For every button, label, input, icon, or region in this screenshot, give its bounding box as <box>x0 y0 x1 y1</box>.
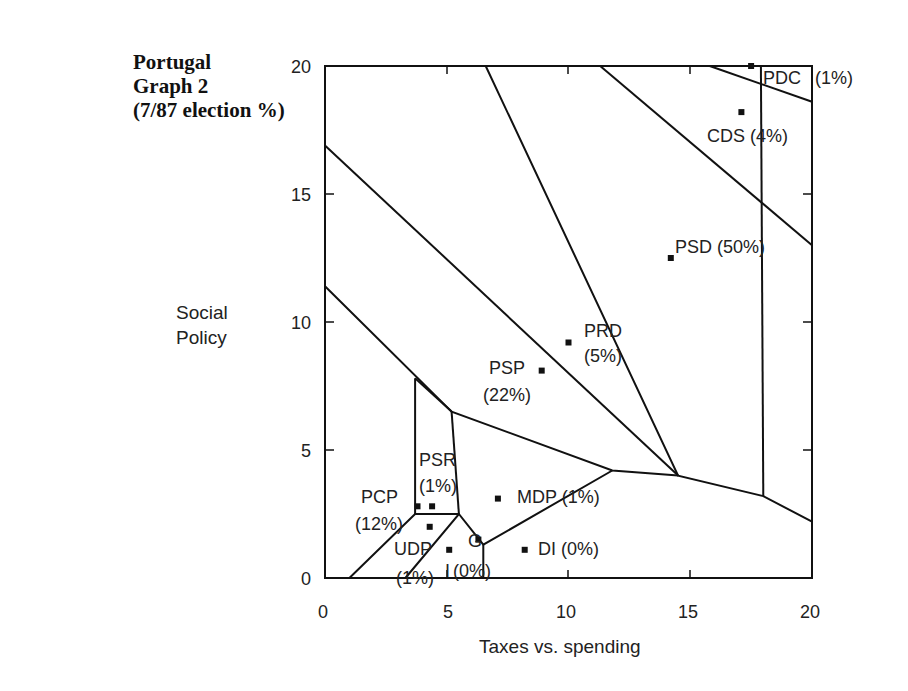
x-tick-15: 15 <box>678 602 698 622</box>
point-cds <box>738 109 744 115</box>
y-tick-20: 20 <box>291 57 311 77</box>
label-psp: PSP <box>489 358 525 378</box>
point-i <box>446 547 452 553</box>
plot-area: 0 5 10 15 20 0 5 10 15 20 PDC (1%) CDS (… <box>0 0 908 691</box>
point-di <box>522 547 528 553</box>
label-pcp: PCP <box>361 487 398 507</box>
region-boundary-1 <box>600 66 812 245</box>
label-psd: PSD (50%) <box>675 237 765 257</box>
label-i-pct: (0%) <box>453 561 491 581</box>
party-labels: PDC (1%) CDS (4%) PSD (50%) PRD (5%) PSP… <box>355 68 853 588</box>
region-boundary-5 <box>415 378 452 411</box>
label-i: I <box>445 561 450 581</box>
label-di: DI (0%) <box>538 539 599 559</box>
label-pdc-pct: (1%) <box>815 68 853 88</box>
y-tick-labels: 0 5 10 15 20 <box>291 57 311 589</box>
point-prd <box>566 340 572 346</box>
label-prd: PRD <box>584 321 622 341</box>
label-pcp-pct: (12%) <box>355 514 403 534</box>
point-pdc <box>748 63 754 69</box>
party-points <box>415 63 755 553</box>
region-boundary-4 <box>325 286 678 475</box>
x-tick-10: 10 <box>556 602 576 622</box>
x-tick-5: 5 <box>443 602 453 622</box>
label-psp-pct: (22%) <box>483 385 531 405</box>
x-tick-labels: 0 5 10 15 20 <box>318 602 820 622</box>
x-tick-20: 20 <box>800 602 820 622</box>
label-psr: PSR <box>419 450 456 470</box>
label-g: G <box>468 531 482 551</box>
point-psd <box>668 255 674 261</box>
label-psr-pct: (1%) <box>419 476 457 496</box>
label-mdp: MDP (1%) <box>517 487 600 507</box>
y-tick-0: 0 <box>301 569 311 589</box>
point-psp <box>539 368 545 374</box>
label-cds: CDS (4%) <box>707 126 788 146</box>
label-udp-pct: (1%) <box>396 568 434 588</box>
point-psr <box>429 503 435 509</box>
point-udp <box>427 524 433 530</box>
y-tick-10: 10 <box>291 313 311 333</box>
y-tick-5: 5 <box>301 441 311 461</box>
point-mdp <box>495 496 501 502</box>
region-boundary-3 <box>325 145 678 475</box>
label-udp: UDP <box>394 539 432 559</box>
label-pdc: PDC <box>763 68 801 88</box>
label-prd-pct: (5%) <box>584 346 622 366</box>
y-tick-15: 15 <box>291 185 311 205</box>
point-pcp <box>415 503 421 509</box>
x-tick-0: 0 <box>318 602 328 622</box>
